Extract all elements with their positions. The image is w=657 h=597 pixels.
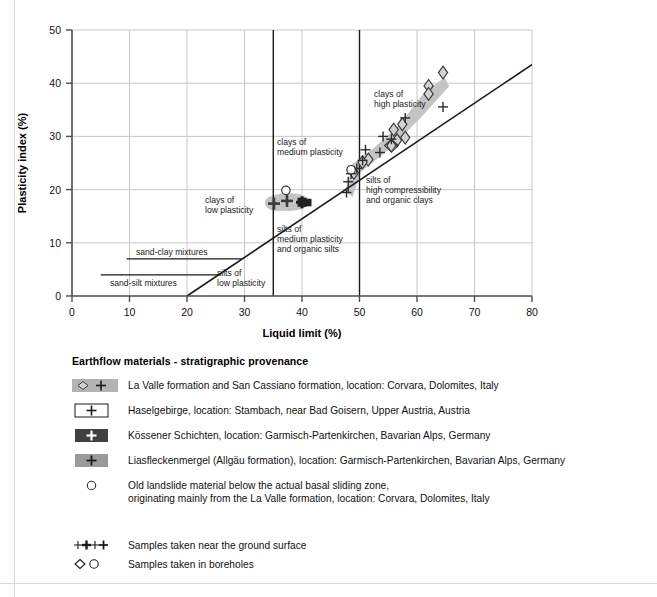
svg-text:clays of: clays of xyxy=(205,195,235,205)
legend: Earthflow materials - stratigraphic prov… xyxy=(72,355,652,514)
diamond-icon xyxy=(75,560,85,569)
legend-label: Kössener Schichten, location: Garmisch-P… xyxy=(128,428,490,442)
symbol-label: Samples taken in boreholes xyxy=(128,558,254,571)
circle-icon xyxy=(87,481,95,489)
legend-label: Old landslide material below the actual … xyxy=(128,478,490,505)
x-tick-label: 80 xyxy=(526,306,538,318)
svg-text:low plasticity: low plasticity xyxy=(205,205,254,215)
svg-text:and organic clays: and organic clays xyxy=(366,195,433,205)
x-tick-label: 40 xyxy=(296,306,308,318)
symbol-swatch-surface-samples xyxy=(72,538,118,552)
svg-text:high compressibility: high compressibility xyxy=(366,185,442,195)
x-tick-labels: 0 10 20 30 40 50 60 70 80 xyxy=(69,306,538,318)
legend-label: La Valle formation and San Cassiano form… xyxy=(128,378,499,392)
legend-row: Haselgebirge, location: Stambach, near B… xyxy=(72,403,652,419)
legend-title: Earthflow materials - stratigraphic prov… xyxy=(72,355,652,367)
svg-text:and organic silts: and organic silts xyxy=(277,244,339,254)
svg-text:silts of: silts of xyxy=(366,175,391,185)
legend-swatch-old-landslide xyxy=(72,478,118,493)
legend-row: Liasfleckenmergel (Allgäu formation), lo… xyxy=(72,453,652,469)
x-axis-title: Liquid limit (%) xyxy=(263,327,342,339)
legend-row: Old landslide material below the actual … xyxy=(72,478,652,505)
figure-root: 50 40 30 20 10 0 0 10 20 30 40 50 60 70 … xyxy=(0,0,657,597)
symbol-label: Samples taken near the ground surface xyxy=(128,539,306,552)
x-tick-label: 70 xyxy=(469,306,481,318)
y-tick-labels: 50 40 30 20 10 0 xyxy=(49,24,61,302)
svg-text:silts of: silts of xyxy=(217,268,242,278)
plus-icon xyxy=(74,541,82,549)
x-tick-label: 0 xyxy=(69,306,75,318)
x-tick-label: 60 xyxy=(411,306,423,318)
legend-row: Kössener Schichten, location: Garmisch-P… xyxy=(72,428,652,444)
y-tick-label: 0 xyxy=(55,290,61,302)
plus-icon xyxy=(82,541,91,550)
symbol-legend: Samples taken near the ground surface Sa… xyxy=(72,538,472,576)
svg-text:medium plasticity: medium plasticity xyxy=(277,147,344,157)
x-tick-label: 30 xyxy=(239,306,251,318)
y-axis-ticks xyxy=(66,30,72,296)
plus-icon xyxy=(99,541,108,550)
svg-text:clays of: clays of xyxy=(277,137,307,147)
legend-row: La Valle formation and San Cassiano form… xyxy=(72,378,652,394)
x-tick-label: 50 xyxy=(354,306,366,318)
y-tick-label: 50 xyxy=(49,24,61,36)
symbol-row: Samples taken near the ground surface xyxy=(72,538,472,552)
legend-swatch-la-valle xyxy=(72,378,118,393)
svg-text:clays of: clays of xyxy=(374,89,404,99)
plus-icon xyxy=(91,541,99,549)
legend-label: Haselgebirge, location: Stambach, near B… xyxy=(128,403,470,417)
svg-text:silts of: silts of xyxy=(277,224,302,234)
symbol-row: Samples taken in boreholes xyxy=(72,557,472,571)
y-tick-label: 30 xyxy=(49,130,61,142)
y-axis-title: Plasticity index (%) xyxy=(16,113,28,214)
legend-swatch-haselgebirge xyxy=(72,403,118,418)
legend-swatch-koessener xyxy=(72,428,118,443)
svg-text:low plasticity: low plasticity xyxy=(217,278,266,288)
y-tick-label: 20 xyxy=(49,184,61,196)
x-tick-label: 10 xyxy=(124,306,136,318)
y-tick-label: 10 xyxy=(49,237,61,249)
legend-swatch-liasfleckenmergel xyxy=(72,453,118,468)
circle-icon xyxy=(90,560,98,568)
annot-sand-clay: sand-clay mixtures xyxy=(136,247,208,257)
annot-sand-silt: sand-silt mixtures xyxy=(110,278,177,288)
svg-text:high plasticity: high plasticity xyxy=(374,99,426,109)
legend-label: Liasfleckenmergel (Allgäu formation), lo… xyxy=(128,453,565,467)
x-axis-ticks xyxy=(72,296,532,302)
symbol-swatch-borehole-samples xyxy=(72,557,118,571)
svg-text:medium plasticity: medium plasticity xyxy=(277,234,344,244)
x-tick-label: 20 xyxy=(181,306,193,318)
y-tick-label: 40 xyxy=(49,77,61,89)
